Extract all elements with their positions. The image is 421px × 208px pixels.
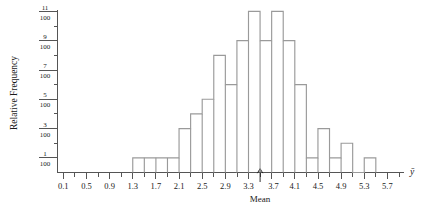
y-tick-denominator: 100	[40, 131, 51, 139]
x-tick-label: 4.9	[336, 181, 347, 191]
x-tick-label: 4.5	[313, 181, 324, 191]
y-axis-minor-ticks	[54, 26, 58, 143]
x-tick-label: 5.3	[359, 181, 370, 191]
x-tick-label: 2.9	[220, 181, 231, 191]
histogram-outline	[133, 11, 376, 172]
x-tick-label: 2.1	[174, 181, 185, 191]
y-tick-denominator: 100	[40, 14, 51, 22]
x-axis-caption: Mean	[250, 194, 271, 204]
x-axis-minor-ticks	[75, 173, 399, 177]
y-tick-numerator: 9	[43, 33, 47, 41]
x-axis-major-ticks	[63, 173, 387, 179]
y-tick-denominator: 100	[40, 101, 51, 109]
x-tick-label: 0.1	[58, 181, 69, 191]
y-tick-denominator: 100	[40, 160, 51, 168]
histogram-bars	[133, 11, 376, 172]
x-tick-label: 2.5	[197, 181, 208, 191]
y-tick-numerator: 11	[42, 4, 49, 12]
y-tick-denominator: 100	[40, 43, 51, 51]
y-tick-numerator: 7	[43, 62, 47, 70]
x-tick-label: 0.9	[104, 181, 115, 191]
x-tick-label: 4.1	[289, 181, 300, 191]
x-axis-variable-symbol: ȳ	[409, 167, 415, 177]
histogram-plot: Relative Frequency 11 100 9 100 7 100 5 …	[0, 0, 421, 208]
y-tick-numerator: 1	[43, 150, 47, 158]
histogram-figure: Relative Frequency 11 100 9 100 7 100 5 …	[0, 0, 421, 208]
x-tick-label: 0.5	[81, 181, 92, 191]
y-tick-numerator: 3	[43, 121, 47, 129]
y-axis-title: Relative Frequency	[9, 56, 19, 130]
y-tick-numerator: 5	[43, 91, 47, 99]
x-tick-label: 1.3	[127, 181, 138, 191]
y-tick-denominator: 100	[40, 72, 51, 80]
x-axis-tick-labels: 0.1 0.5 0.9 1.3 1.7 2.1 2.5 2.9 3.3 3.7 …	[58, 181, 393, 191]
x-tick-label: 3.3	[243, 181, 254, 191]
x-tick-label: 3.7	[268, 181, 279, 191]
x-tick-label: 1.7	[151, 181, 162, 191]
x-tick-label: 5.7	[382, 181, 393, 191]
